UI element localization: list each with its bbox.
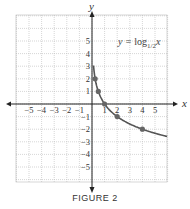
svg-text:5: 5 [86,36,90,46]
svg-text:4: 4 [140,105,145,115]
svg-text:−5: −5 [81,162,90,172]
svg-text:3: 3 [128,105,132,115]
figure-caption: FIGURE 2 [0,193,190,203]
svg-text:−3: −3 [81,137,90,147]
svg-text:5: 5 [153,105,157,115]
svg-text:−4: −4 [81,149,91,159]
svg-text:3: 3 [86,61,90,71]
equation-label: y = log1/2x [117,36,161,50]
chart: xy −5−4−3−2−112345−5−4−3−2−112345 y = lo… [0,0,190,209]
svg-text:−2: −2 [81,124,90,134]
svg-text:2: 2 [115,105,119,115]
axes: xy [6,0,187,193]
svg-text:x: x [181,97,187,109]
svg-text:2: 2 [86,74,90,84]
svg-text:−3: −3 [50,105,59,115]
svg-text:y: y [88,0,94,12]
svg-text:1: 1 [86,86,90,96]
svg-text:−4: −4 [37,105,47,115]
svg-text:−2: −2 [62,105,71,115]
svg-text:−5: −5 [24,105,33,115]
svg-text:−1: −1 [81,112,90,122]
